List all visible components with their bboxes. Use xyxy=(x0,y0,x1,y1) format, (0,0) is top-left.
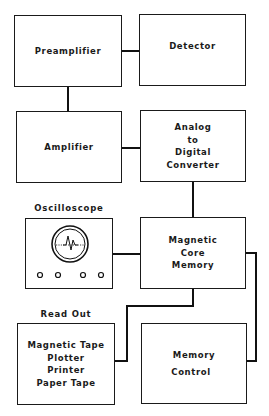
preamplifier-label: Preamplifier xyxy=(35,45,101,58)
memory-control-block: Memory Control xyxy=(141,323,247,404)
oscilloscope-icon xyxy=(26,219,112,288)
memory-label-line-1: Magnetic xyxy=(169,234,218,247)
amplifier-label: Amplifier xyxy=(44,141,93,154)
adc-label-line-4: Converter xyxy=(166,159,219,172)
memory-label-line-3: Memory xyxy=(172,259,214,272)
memory-control-line-1: Memory xyxy=(173,349,215,362)
oscilloscope-title: Oscilloscope xyxy=(25,203,113,213)
oscilloscope-knob-3 xyxy=(81,273,86,278)
adc-label-line-1: Analog xyxy=(175,121,212,134)
readout-block: Magnetic Tape Plotter Printer Paper Tape xyxy=(17,323,115,405)
connector-memory-control xyxy=(246,253,256,361)
oscilloscope-knob-4 xyxy=(99,273,104,278)
adc-block: Analog to Digital Converter xyxy=(140,110,246,182)
adc-label-line-2: to xyxy=(187,134,198,147)
memory-label-line-2: Core xyxy=(181,247,205,260)
readout-line-1: Magnetic Tape xyxy=(27,339,104,352)
memory-control-line-2: Control xyxy=(171,366,210,379)
detector-block: Detector xyxy=(139,14,246,86)
readout-line-4: Paper Tape xyxy=(36,377,95,390)
detector-label: Detector xyxy=(169,40,216,53)
preamplifier-block: Preamplifier xyxy=(14,15,122,87)
adc-label-line-3: Digital xyxy=(175,146,211,159)
readout-line-2: Plotter xyxy=(47,352,84,365)
magnetic-core-memory-block: Magnetic Core Memory xyxy=(140,217,246,289)
amplifier-block: Amplifier xyxy=(16,111,122,183)
readout-line-3: Printer xyxy=(47,364,85,377)
oscilloscope-knob-2 xyxy=(56,273,61,278)
oscilloscope-knob-1 xyxy=(38,273,43,278)
oscilloscope-waveform xyxy=(63,236,78,250)
readout-title: Read Out xyxy=(17,309,115,319)
oscilloscope-block xyxy=(25,218,113,289)
